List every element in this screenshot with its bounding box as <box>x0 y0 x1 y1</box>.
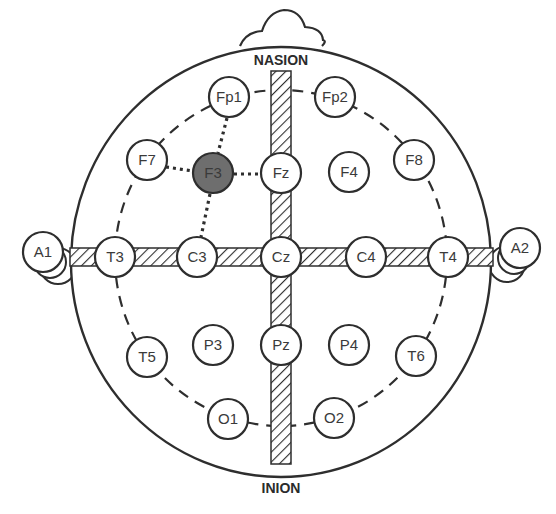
electrode-label: T4 <box>439 248 457 265</box>
electrode-f7: F7 <box>127 140 167 180</box>
electrode-o1: O1 <box>208 399 248 439</box>
electrode-p4: P4 <box>329 325 369 365</box>
electrode-f4: F4 <box>329 152 369 192</box>
electrode-c3: C3 <box>177 237 217 277</box>
electrode-label: F8 <box>405 151 423 168</box>
electrode-label: T5 <box>138 348 156 365</box>
electrode-label: Pz <box>272 336 290 353</box>
electrode-pz: Pz <box>261 325 301 365</box>
eeg-10-20-diagram: Fp1Fp2F7F3FzF4F8A1T3C3CzC4T4A2T5P3PzP4T6… <box>0 0 556 514</box>
electrode-label: Fz <box>273 164 290 181</box>
nose-outline <box>240 10 325 46</box>
electrode-label: O1 <box>218 410 238 427</box>
electrode-t5: T5 <box>127 337 167 377</box>
electrode-label: C3 <box>187 248 206 265</box>
electrode-a1: A1 <box>23 232 63 272</box>
electrode-label: T6 <box>407 347 425 364</box>
electrode-label: F3 <box>204 164 222 181</box>
electrode-c4: C4 <box>346 237 386 277</box>
electrode-label: Cz <box>272 248 290 265</box>
electrode-f8: F8 <box>394 140 434 180</box>
electrode-label: T3 <box>106 248 124 265</box>
electrode-t3: T3 <box>95 237 135 277</box>
electrode-label: P4 <box>340 336 358 353</box>
electrode-fz: Fz <box>261 153 301 193</box>
electrode-label: C4 <box>356 248 375 265</box>
electrode-label: A1 <box>34 243 52 260</box>
electrode-label: O2 <box>324 409 344 426</box>
electrode-t4: T4 <box>428 237 468 277</box>
electrode-p3: P3 <box>193 325 233 365</box>
nasion-label: NASION <box>254 52 308 68</box>
inion-label: INION <box>262 480 301 496</box>
electrode-cz: Cz <box>261 237 301 277</box>
electrode-t6: T6 <box>396 336 436 376</box>
electrode-a2: A2 <box>500 228 540 268</box>
electrode-label: A2 <box>511 239 529 256</box>
electrode-label: P3 <box>204 336 222 353</box>
electrode-label: Fp1 <box>216 88 242 105</box>
electrode-fp2: Fp2 <box>315 77 355 117</box>
electrode-f3: F3 <box>193 153 233 193</box>
electrode-label: F4 <box>340 163 358 180</box>
electrode-o2: O2 <box>314 398 354 438</box>
electrode-fp1: Fp1 <box>209 77 249 117</box>
electrode-label: Fp2 <box>322 88 348 105</box>
electrode-label: F7 <box>138 151 156 168</box>
